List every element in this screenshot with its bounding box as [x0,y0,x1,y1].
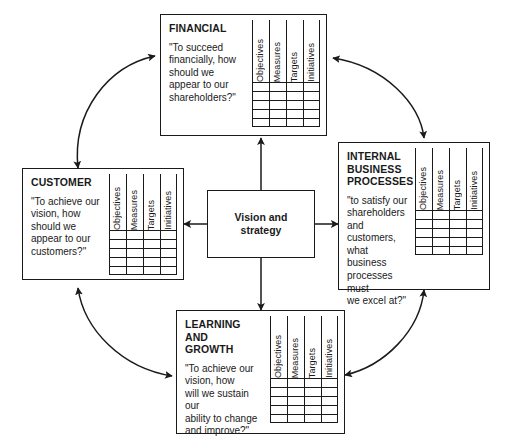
scorecard-cell[interactable] [303,82,320,91]
scorecard-cell[interactable] [432,237,449,246]
scorecard-column-measures[interactable]: Measures [126,174,143,275]
scorecard-cell[interactable] [466,246,483,255]
scorecard-cell[interactable] [143,257,160,266]
scorecard-cell[interactable] [466,228,483,237]
scorecard-cell[interactable] [126,266,143,275]
scorecard-cell[interactable] [126,257,143,266]
scorecard-cell[interactable] [449,219,466,228]
customer-scorecard-grid[interactable]: ObjectivesMeasuresTargetsInitiatives [109,174,177,275]
scorecard-cell[interactable] [270,396,287,405]
scorecard-cell[interactable] [466,210,483,219]
scorecard-cell[interactable] [449,246,466,255]
scorecard-cell[interactable] [321,378,338,387]
scorecard-cell[interactable] [415,210,432,219]
perspective-box-financial[interactable]: FINANCIAL "To succeed financially, how s… [160,14,327,136]
scorecard-cell[interactable] [287,414,304,423]
scorecard-cell[interactable] [109,230,126,239]
scorecard-cell[interactable] [160,230,177,239]
scorecard-column-initiatives[interactable]: Initiatives [303,20,320,127]
scorecard-cell[interactable] [269,91,286,100]
scorecard-cell[interactable] [160,257,177,266]
scorecard-cell[interactable] [109,248,126,257]
scorecard-cell[interactable] [286,109,303,118]
scorecard-cell[interactable] [287,378,304,387]
scorecard-cell[interactable] [126,230,143,239]
scorecard-cell[interactable] [252,82,269,91]
scorecard-cell[interactable] [321,387,338,396]
scorecard-cell[interactable] [252,100,269,109]
perspective-box-learning-and-growth[interactable]: LEARNING AND GROWTH "To achieve our visi… [176,310,345,434]
scorecard-cell[interactable] [415,246,432,255]
scorecard-cell[interactable] [304,396,321,405]
scorecard-cell[interactable] [304,414,321,423]
scorecard-cell[interactable] [252,118,269,127]
scorecard-column-objectives[interactable]: Objectives [415,148,432,255]
scorecard-column-initiatives[interactable]: Initiatives [321,316,338,423]
scorecard-cell[interactable] [432,210,449,219]
scorecard-cell[interactable] [449,228,466,237]
scorecard-cell[interactable] [109,239,126,248]
scorecard-cell[interactable] [286,91,303,100]
scorecard-cell[interactable] [270,387,287,396]
scorecard-column-initiatives[interactable]: Initiatives [160,174,177,275]
learning-scorecard-grid[interactable]: ObjectivesMeasuresTargetsInitiatives [270,316,338,423]
scorecard-cell[interactable] [286,118,303,127]
scorecard-cell[interactable] [269,118,286,127]
scorecard-column-objectives[interactable]: Objectives [109,174,126,275]
scorecard-cell[interactable] [304,405,321,414]
scorecard-cell[interactable] [270,378,287,387]
scorecard-cell[interactable] [432,246,449,255]
scorecard-cell[interactable] [126,239,143,248]
scorecard-cell[interactable] [160,239,177,248]
scorecard-cell[interactable] [160,266,177,275]
scorecard-cell[interactable] [287,387,304,396]
vision-and-strategy-node[interactable]: Vision and strategy [207,190,315,258]
scorecard-cell[interactable] [109,266,126,275]
scorecard-cell[interactable] [466,219,483,228]
perspective-box-customer[interactable]: CUSTOMER "To achieve our vision, how sho… [22,168,184,280]
scorecard-cell[interactable] [270,414,287,423]
scorecard-column-targets[interactable]: Targets [143,174,160,275]
scorecard-cell[interactable] [269,100,286,109]
financial-scorecard-grid[interactable]: ObjectivesMeasuresTargetsInitiatives [252,20,320,127]
scorecard-cell[interactable] [143,266,160,275]
scorecard-cell[interactable] [303,91,320,100]
scorecard-column-objectives[interactable]: Objectives [270,316,287,423]
scorecard-cell[interactable] [269,82,286,91]
scorecard-cell[interactable] [449,237,466,246]
scorecard-column-measures[interactable]: Measures [287,316,304,423]
scorecard-cell[interactable] [286,100,303,109]
scorecard-cell[interactable] [321,414,338,423]
scorecard-cell[interactable] [160,248,177,257]
scorecard-cell[interactable] [143,239,160,248]
scorecard-cell[interactable] [126,248,143,257]
scorecard-cell[interactable] [415,219,432,228]
scorecard-cell[interactable] [269,109,286,118]
scorecard-column-targets[interactable]: Targets [304,316,321,423]
scorecard-cell[interactable] [252,91,269,100]
scorecard-cell[interactable] [270,405,287,414]
scorecard-cell[interactable] [466,237,483,246]
perspective-box-internal-business-processes[interactable]: INTERNAL BUSINESS PROCESSES "to satisfy … [338,142,490,290]
internal-scorecard-grid[interactable]: ObjectivesMeasuresTargetsInitiatives [415,148,483,255]
scorecard-column-objectives[interactable]: Objectives [252,20,269,127]
scorecard-cell[interactable] [286,82,303,91]
scorecard-cell[interactable] [321,405,338,414]
scorecard-cell[interactable] [287,396,304,405]
scorecard-cell[interactable] [321,396,338,405]
scorecard-cell[interactable] [252,109,269,118]
scorecard-cell[interactable] [109,257,126,266]
scorecard-cell[interactable] [303,100,320,109]
scorecard-cell[interactable] [415,228,432,237]
scorecard-cell[interactable] [143,248,160,257]
scorecard-cell[interactable] [304,378,321,387]
scorecard-column-measures[interactable]: Measures [269,20,286,127]
scorecard-column-targets[interactable]: Targets [449,148,466,255]
scorecard-cell[interactable] [287,405,304,414]
scorecard-cell[interactable] [303,109,320,118]
scorecard-column-initiatives[interactable]: Initiatives [466,148,483,255]
scorecard-cell[interactable] [432,228,449,237]
scorecard-cell[interactable] [415,237,432,246]
scorecard-cell[interactable] [449,210,466,219]
scorecard-cell[interactable] [143,230,160,239]
